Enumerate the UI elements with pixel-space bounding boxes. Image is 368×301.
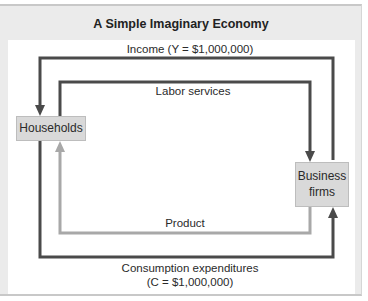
income-flow-arrow xyxy=(35,58,333,160)
business-label-line2: firms xyxy=(309,185,335,201)
households-label: Households xyxy=(19,121,82,137)
business-label-line1: Business xyxy=(298,169,347,185)
consumption-label-line2: (C = $1,000,000) xyxy=(120,276,260,288)
households-node: Households xyxy=(16,116,86,141)
product-label: Product xyxy=(155,217,215,229)
income-label: Income (Y = $1,000,000) xyxy=(120,43,260,55)
labor-label: Labor services xyxy=(143,85,243,97)
consumption-label-line1: Consumption expenditures xyxy=(110,262,270,274)
consumption-flow-arrow xyxy=(40,141,338,257)
business-firms-node: Business firms xyxy=(295,162,349,207)
